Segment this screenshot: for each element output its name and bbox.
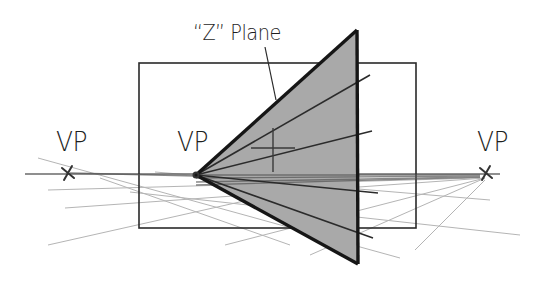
vp-center-label: VP — [177, 128, 208, 155]
z-plane-label: “Z” Plane — [193, 23, 281, 44]
vp-center-dot — [194, 173, 199, 178]
z-plane-vertical-edge — [357, 30, 358, 264]
vp-left-label: VP — [56, 128, 87, 155]
vp-right-label: VP — [477, 128, 508, 155]
